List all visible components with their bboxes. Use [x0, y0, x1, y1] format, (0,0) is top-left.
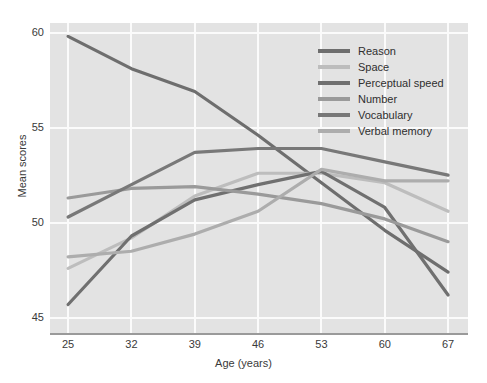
- legend: ReasonSpacePerceptual speedNumberVocabul…: [318, 44, 444, 138]
- legend-swatch-icon: [318, 97, 350, 101]
- legend-item[interactable]: Reason: [318, 44, 444, 58]
- legend-item[interactable]: Number: [318, 92, 444, 106]
- legend-label: Vocabulary: [358, 109, 412, 121]
- legend-label: Reason: [358, 45, 396, 57]
- legend-label: Verbal memory: [358, 125, 432, 137]
- legend-item[interactable]: Verbal memory: [318, 124, 444, 138]
- legend-label: Perceptual speed: [358, 77, 444, 89]
- legend-swatch-icon: [318, 129, 350, 133]
- series-line: [68, 171, 448, 304]
- legend-swatch-icon: [318, 49, 350, 53]
- legend-label: Number: [358, 93, 397, 105]
- series-line: [68, 149, 448, 217]
- legend-item[interactable]: Perceptual speed: [318, 76, 444, 90]
- legend-swatch-icon: [318, 65, 350, 69]
- legend-swatch-icon: [318, 81, 350, 85]
- legend-item[interactable]: Space: [318, 60, 444, 74]
- chart-container: 45505560 25323946536067 Mean scores Age …: [0, 0, 487, 383]
- legend-label: Space: [358, 61, 389, 73]
- legend-swatch-icon: [318, 113, 350, 117]
- legend-item[interactable]: Vocabulary: [318, 108, 444, 122]
